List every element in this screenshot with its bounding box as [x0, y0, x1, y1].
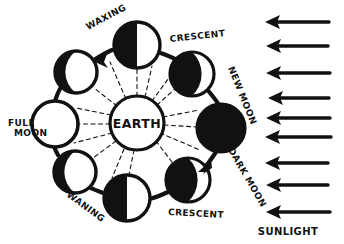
moon-full-moon-left — [32, 101, 78, 147]
moon-phases-diagram: EARTH WAXING CRESCENT NEW MOON DARK MOON… — [0, 0, 344, 244]
ray-extra-top-right — [145, 66, 152, 97]
sunlight-arrow — [265, 156, 328, 170]
ray-to-crescent-upper-right — [157, 88, 176, 105]
label-dark-moon: DARK MOON — [226, 146, 268, 209]
sunlight-arrows-group — [265, 15, 331, 219]
sunlight-label: SUNLIGHT — [258, 226, 318, 237]
ray-extra-lower-left — [112, 149, 124, 178]
moon-phases-illustration: EARTH WAXING CRESCENT NEW MOON DARK MOON… — [0, 0, 344, 244]
orbit-arc-bottom-right — [149, 192, 168, 199]
moon-gibbous-lower-left — [54, 151, 96, 193]
ray-to-gibbous-upper-left — [94, 88, 117, 106]
ray-to-third-quarter — [129, 150, 134, 175]
earth-label: EARTH — [113, 116, 161, 131]
moon-first-quarter-top — [114, 22, 160, 68]
moon-gibbous-upper-left — [55, 51, 97, 93]
orbit-arc-left-upper — [55, 87, 61, 101]
sunlight-arrow — [266, 111, 330, 125]
sunlight-arrow — [265, 130, 331, 144]
ray-to-new-moon — [164, 125, 197, 127]
ray-extra-left-lower — [74, 133, 112, 143]
moon-crescent-lower-right — [166, 158, 210, 202]
label-waning: WANING — [65, 190, 107, 224]
moon-crescent-upper-right — [170, 52, 214, 96]
ray-extra-lower-right — [160, 133, 200, 150]
sunlight-arrow — [266, 205, 330, 219]
earth-body: EARTH — [110, 96, 164, 150]
sunlight-arrow — [268, 91, 329, 105]
moon-third-quarter-bottom — [104, 175, 150, 221]
ray-to-crescent-lower-right — [156, 141, 172, 162]
sunlight-arrow — [266, 39, 328, 53]
label-full-moon-line2: MOON — [14, 128, 47, 138]
sunlight-arrow — [266, 66, 330, 80]
sunlight-arrow — [265, 15, 329, 29]
ray-extra-left-upper — [76, 108, 111, 115]
ray-extra-right-upper — [163, 110, 199, 117]
label-crescent-bottom: CRESCENT — [168, 207, 225, 220]
moon-new-moon-right — [197, 104, 245, 152]
ray-extra-upper-left — [110, 62, 126, 99]
ray-to-gibbous-lower-left — [93, 141, 116, 158]
sunlight-arrow — [266, 178, 328, 192]
label-full-moon-line1: FULL — [8, 118, 35, 128]
label-crescent-top: CRESCENT — [169, 28, 226, 44]
